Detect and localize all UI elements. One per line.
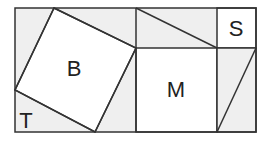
geometry-diagram: B M S T (0, 0, 270, 141)
label-t: T (19, 108, 32, 133)
label-b: B (67, 56, 82, 81)
label-s: S (229, 16, 244, 41)
label-m: M (167, 77, 185, 102)
